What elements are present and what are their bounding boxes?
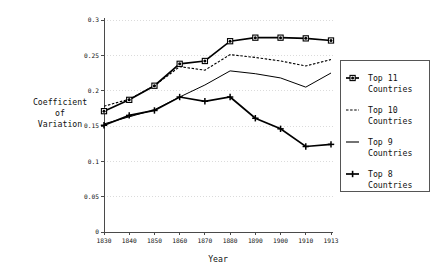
chart-container: 00.050.10.150.20.250.3 18301840185018601… [0, 0, 443, 271]
data-point-marker-center [330, 39, 333, 42]
data-point-marker-center [103, 110, 106, 113]
legend-label-primary: Top 11 [368, 73, 398, 83]
legend-label-secondary: Countries [368, 180, 412, 190]
data-point-marker-center [279, 36, 282, 39]
data-point-marker-center [178, 62, 181, 65]
x-tick-label: 1870 [197, 237, 212, 244]
data-point-marker-center [229, 40, 232, 43]
y-axis-title-line1: Coefficient [33, 97, 87, 107]
y-axis-title-line2: of [55, 108, 65, 118]
y-axis-title-line3: Variation [38, 119, 82, 129]
x-tick-label: 1860 [172, 237, 187, 244]
y-tick-label: 0.1 [88, 158, 99, 165]
x-tick-label: 1900 [273, 237, 288, 244]
x-tick-label: 1880 [223, 237, 238, 244]
legend-label-secondary: Countries [368, 84, 412, 94]
data-point-marker-center [304, 37, 307, 40]
x-tick-label: 1913 [324, 237, 339, 244]
legend-label-secondary: Countries [368, 116, 412, 126]
legend-label-secondary: Countries [368, 148, 412, 158]
x-tick-label: 1840 [122, 237, 137, 244]
legend-label-primary: Top 8 [368, 169, 393, 179]
x-tick-label: 1890 [248, 237, 263, 244]
y-tick-label: 0 [95, 228, 99, 235]
data-point-marker-center [203, 59, 206, 62]
x-axis-title: Year [208, 254, 228, 264]
data-point-marker-center [254, 36, 257, 39]
x-tick-label: 1910 [298, 237, 313, 244]
y-tick-label: 0.05 [84, 193, 99, 200]
legend-label-primary: Top 10 [368, 105, 398, 115]
y-tick-label: 0.3 [88, 16, 99, 23]
x-tick-label: 1830 [97, 237, 112, 244]
y-tick-label: 0.25 [84, 52, 99, 59]
x-tick-label: 1850 [147, 237, 162, 244]
legend-label-primary: Top 9 [368, 137, 393, 147]
y-tick-label: 0.2 [88, 87, 99, 94]
y-tick-label: 0.15 [84, 122, 99, 129]
line-chart: 00.050.10.150.20.250.3 18301840185018601… [0, 0, 443, 271]
legend-square-marker-center-icon [351, 77, 354, 80]
